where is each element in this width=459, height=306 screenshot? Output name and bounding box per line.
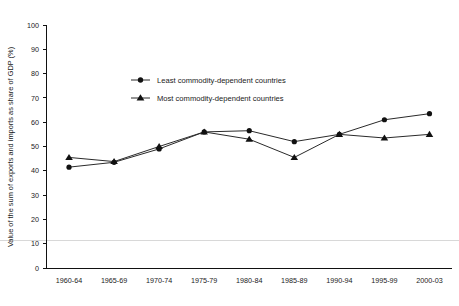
line-chart: 0102030405060708090100 1960-641965-69197… xyxy=(0,0,459,306)
y-axis-title: Value of the sum of exports and imports … xyxy=(6,47,15,247)
legend-item: Least commodity-dependent countries xyxy=(131,76,286,85)
data-point-circle xyxy=(66,165,71,170)
y-tick-label: 70 xyxy=(31,94,39,103)
chart-container: 0102030405060708090100 1960-641965-69197… xyxy=(0,0,459,306)
data-point-circle xyxy=(247,128,252,133)
x-tick-label: 1985-89 xyxy=(281,276,307,285)
series-2 xyxy=(65,128,433,164)
y-tick-label: 50 xyxy=(31,142,39,151)
x-tick-label: 1970-74 xyxy=(146,276,172,285)
data-point-circle xyxy=(427,111,432,116)
legend-label: Most commodity-dependent countries xyxy=(157,94,284,103)
y-tick-label: 40 xyxy=(31,166,39,175)
x-tick-label: 1980-84 xyxy=(236,276,262,285)
series-group xyxy=(65,111,433,170)
y-tick-label: 20 xyxy=(31,215,39,224)
x-tick-label: 1990-94 xyxy=(326,276,352,285)
legend-label: Least commodity-dependent countries xyxy=(157,76,286,85)
data-point-triangle xyxy=(65,154,73,160)
x-tick-label: 1960-64 xyxy=(56,276,82,285)
y-tick-label: 100 xyxy=(27,21,39,30)
data-point-triangle xyxy=(291,154,299,160)
data-point-circle xyxy=(292,139,297,144)
y-tick-label: 0 xyxy=(35,264,39,273)
data-point-circle xyxy=(382,117,387,122)
y-tick-label: 10 xyxy=(31,239,39,248)
data-point-circle xyxy=(138,77,143,82)
x-tick-label: 1995-99 xyxy=(371,276,397,285)
x-tick-label: 1975-79 xyxy=(191,276,217,285)
x-axis-ticks: 1960-641965-691970-741975-791980-841985-… xyxy=(56,276,443,285)
data-point-triangle xyxy=(426,131,434,137)
legend-item: Most commodity-dependent countries xyxy=(131,94,284,103)
x-tick-label: 1965-69 xyxy=(101,276,127,285)
y-tick-label: 90 xyxy=(31,45,39,54)
y-tick-label: 60 xyxy=(31,118,39,127)
chart-legend: Least commodity-dependent countriesMost … xyxy=(131,76,286,103)
y-tick-label: 80 xyxy=(31,69,39,78)
data-point-triangle xyxy=(137,94,145,100)
y-axis-ticks: 0102030405060708090100 xyxy=(27,21,47,273)
y-tick-label: 30 xyxy=(31,191,39,200)
x-tick-label: 2000-03 xyxy=(416,276,442,285)
